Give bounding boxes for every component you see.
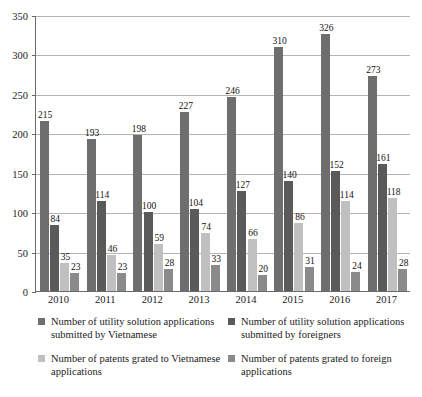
bar	[164, 269, 173, 291]
y-axis-tick-label: 150	[12, 168, 28, 179]
bar	[144, 212, 153, 291]
bar-groups: 2158435231931144623198100592822710474332…	[36, 16, 410, 291]
legend-item: Number of utility solution applications …	[38, 316, 228, 341]
bar-value-label: 152	[329, 160, 343, 170]
legend-column-left: Number of utility solution applications …	[38, 316, 228, 390]
bar	[351, 272, 360, 291]
bar-value-label: 215	[38, 110, 52, 120]
bar	[227, 97, 236, 291]
bar-value-label: 28	[399, 258, 409, 268]
bar-value-label: 114	[340, 190, 354, 200]
y-axis-tick-label: 200	[12, 129, 28, 140]
bar-value-label: 74	[201, 222, 211, 232]
bar-value-label: 273	[366, 65, 380, 75]
bar-group: 1981005928	[133, 16, 173, 291]
bar	[201, 233, 210, 291]
legend-swatch	[38, 318, 45, 325]
bar-value-label: 198	[132, 124, 146, 134]
bar-value-label: 127	[236, 180, 250, 190]
bar-chart: 050100150200250300350 215843523193114462…	[0, 0, 422, 397]
bar	[258, 275, 267, 291]
bar-value-label: 84	[51, 214, 61, 224]
legend-swatch	[228, 318, 235, 325]
x-axis-tick-label: 2011	[95, 294, 116, 306]
bar-value-label: 28	[165, 258, 175, 268]
bar-value-label: 20	[258, 264, 268, 274]
legend-item: Number of patents grated to foreign appl…	[228, 353, 413, 378]
y-axis-tick	[32, 292, 36, 293]
x-axis-tick-labels: 20102011201220132014201520162017	[35, 294, 410, 312]
bar	[248, 239, 257, 291]
x-axis-tick-label: 2012	[142, 294, 163, 306]
y-axis-tick-label: 50	[18, 247, 29, 258]
bar-group: 3101408631	[274, 16, 314, 291]
legend-label: Number of patents grated to foreign appl…	[241, 353, 392, 377]
bar	[368, 76, 377, 291]
bar-group: 27316111828	[368, 16, 408, 291]
legend-column-right: Number of utility solution applications …	[228, 316, 413, 390]
bar-value-label: 66	[248, 228, 258, 238]
bar	[117, 273, 126, 291]
y-axis-tick-label: 350	[12, 11, 28, 22]
bar-value-label: 193	[85, 128, 99, 138]
bar-value-label: 31	[305, 256, 315, 266]
bar-value-label: 161	[376, 153, 390, 163]
bar-value-label: 24	[352, 261, 362, 271]
legend-label: Number of patents grated to Vietnamese a…	[51, 353, 220, 377]
bar	[190, 209, 199, 291]
bar-value-label: 46	[108, 244, 118, 254]
bar-value-label: 227	[179, 101, 193, 111]
bar-group: 2461276620	[227, 16, 267, 291]
legend-item: Number of utility solution applications …	[228, 316, 413, 341]
bar	[87, 139, 96, 291]
bar-value-label: 140	[283, 170, 297, 180]
bar-value-label: 86	[295, 212, 305, 222]
bar	[284, 181, 293, 291]
bar	[294, 223, 303, 291]
y-axis-tick-labels: 050100150200250300350	[0, 16, 32, 292]
plot-area: 2158435231931144623198100592822710474332…	[35, 16, 410, 292]
bar	[40, 121, 49, 291]
bar-value-label: 326	[319, 23, 333, 33]
bar	[107, 255, 116, 291]
bar	[133, 135, 142, 291]
bar	[211, 265, 220, 291]
legend-item: Number of patents grated to Vietnamese a…	[38, 353, 228, 378]
x-axis-tick-label: 2015	[282, 294, 303, 306]
bar-value-label: 33	[212, 254, 222, 264]
bar	[237, 191, 246, 291]
y-axis-tick-label: 250	[12, 89, 28, 100]
x-axis-tick-label: 2017	[376, 294, 397, 306]
legend-label: Number of utility solution applications …	[241, 316, 404, 340]
bar-value-label: 114	[95, 190, 109, 200]
bar	[305, 267, 314, 291]
bar-value-label: 246	[226, 86, 240, 96]
bar	[341, 201, 350, 291]
bar	[378, 164, 387, 291]
bar	[154, 244, 163, 291]
bar-value-label: 35	[61, 252, 71, 262]
x-axis-tick-label: 2014	[235, 294, 256, 306]
bar	[388, 198, 397, 291]
bar	[60, 263, 69, 291]
bar-group: 32615211424	[321, 16, 361, 291]
bar	[50, 225, 59, 291]
bar-value-label: 100	[142, 201, 156, 211]
bar-value-label: 310	[272, 36, 286, 46]
bar	[398, 269, 407, 291]
legend-swatch	[38, 355, 45, 362]
bar-value-label: 104	[189, 198, 203, 208]
y-axis-tick-label: 0	[23, 287, 28, 298]
bar	[70, 273, 79, 291]
y-axis-tick-label: 100	[12, 208, 28, 219]
legend-swatch	[228, 355, 235, 362]
x-axis-tick-label: 2010	[48, 294, 69, 306]
chart-legend: Number of utility solution applications …	[0, 316, 422, 394]
bar-value-label: 23	[71, 262, 81, 272]
x-axis-tick-label: 2013	[189, 294, 210, 306]
plot-area-wrapper: 050100150200250300350 215843523193114462…	[0, 0, 422, 300]
bar	[331, 171, 340, 291]
bar-value-label: 23	[118, 262, 128, 272]
bar-value-label: 59	[155, 233, 165, 243]
bar-group: 1931144623	[87, 16, 127, 291]
